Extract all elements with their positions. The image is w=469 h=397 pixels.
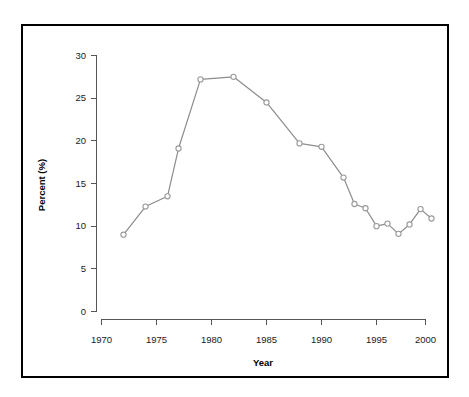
data-point (429, 216, 434, 221)
y-tick-label: 5 (81, 263, 86, 274)
x-tick-label: 2000 (415, 334, 436, 345)
x-tick-label: 1975 (146, 334, 167, 345)
x-tick-marks (102, 320, 426, 326)
data-point (297, 141, 302, 146)
data-point (341, 175, 346, 180)
y-tick-label: 20 (75, 135, 86, 146)
data-point (143, 204, 148, 209)
y-tick-label: 15 (75, 178, 86, 189)
data-point (352, 201, 357, 206)
line-chart: 0 5 10 15 20 25 30 1970 1975 1980 1985 1… (0, 0, 469, 397)
data-series-line (124, 77, 432, 235)
data-point (407, 222, 412, 227)
x-tick-label: 1985 (256, 334, 277, 345)
y-tick-label: 10 (75, 220, 86, 231)
data-point (363, 206, 368, 211)
data-point (396, 231, 401, 236)
x-tick-label: 1980 (201, 334, 222, 345)
x-axis-title: Year (253, 357, 273, 368)
y-tick-marks (91, 56, 97, 312)
data-point (319, 144, 324, 149)
data-series-markers (121, 74, 434, 237)
y-tick-label: 25 (75, 92, 86, 103)
x-tick-label: 1970 (91, 334, 112, 345)
data-point (264, 100, 269, 105)
data-point (374, 224, 379, 229)
x-tick-label: 1990 (311, 334, 332, 345)
y-axis-title: Percent (%) (36, 159, 47, 211)
data-point (165, 194, 170, 199)
x-tick-label: 1995 (366, 334, 387, 345)
figure-root: 0 5 10 15 20 25 30 1970 1975 1980 1985 1… (0, 0, 469, 397)
x-tick-labels: 1970 1975 1980 1985 1990 1995 2000 (91, 334, 436, 345)
data-point (176, 146, 181, 151)
data-point (418, 207, 423, 212)
y-tick-labels: 0 5 10 15 20 25 30 (75, 50, 86, 317)
y-tick-label: 0 (81, 306, 86, 317)
y-tick-label: 30 (75, 50, 86, 61)
data-point (121, 232, 126, 237)
data-point (198, 77, 203, 82)
data-point (231, 74, 236, 79)
data-point (385, 221, 390, 226)
